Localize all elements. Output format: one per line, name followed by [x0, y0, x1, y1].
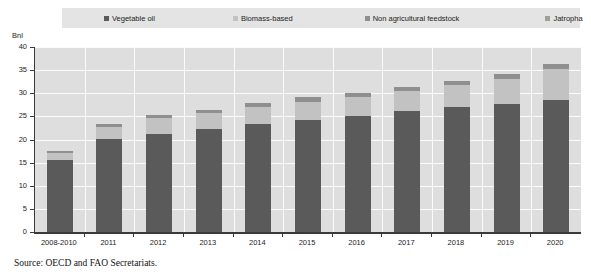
bar-segment	[394, 111, 420, 232]
legend-swatch-icon	[545, 16, 550, 21]
gridline-vertical	[184, 47, 185, 232]
x-axis-tick-label: 2018	[448, 238, 465, 247]
bar-stack	[295, 47, 321, 232]
x-axis-tick	[183, 233, 184, 237]
bar-segment	[394, 91, 420, 111]
bar-segment	[196, 129, 222, 232]
gridline-vertical	[531, 47, 532, 232]
gridline-vertical	[482, 47, 483, 232]
legend-item-biomass-based: Biomass-based	[233, 14, 293, 23]
chart-plot-area: 0510152025303540	[34, 47, 581, 232]
y-axis-tick-label: 30	[7, 88, 27, 97]
bar-stack	[394, 47, 420, 232]
gridline-vertical	[134, 47, 135, 232]
legend-item-jatropha: Jatropha	[545, 14, 582, 23]
bar-segment	[196, 110, 222, 113]
legend-item-label: Biomass-based	[241, 14, 293, 23]
bar-segment	[444, 85, 470, 106]
bar-segment	[444, 81, 470, 86]
x-axis-tick-label: 2014	[249, 238, 266, 247]
legend-item-label: Vegetable oil	[112, 14, 155, 23]
bar-stack	[196, 47, 222, 232]
x-axis-tick-label: 2016	[348, 238, 365, 247]
bar-segment	[543, 100, 569, 232]
bar-segment	[345, 116, 371, 232]
bar-segment	[245, 103, 271, 107]
y-axis-tick-label: 15	[7, 158, 27, 167]
bar-segment	[494, 74, 520, 79]
bar-stack	[245, 47, 271, 232]
x-axis-tick	[431, 233, 432, 237]
legend-item-vegetable-oil: Vegetable oil	[104, 14, 155, 23]
chart-legend: Vegetable oil Biomass-based Non agricult…	[62, 8, 580, 28]
x-axis-tick	[481, 233, 482, 237]
bar-stack	[47, 47, 73, 232]
bar-segment	[96, 127, 122, 139]
x-axis-tick-label: 2013	[199, 238, 216, 247]
x-axis-tick-label: 2011	[100, 238, 116, 247]
y-axis-tick	[30, 163, 34, 164]
y-axis-tick-label: 40	[7, 42, 27, 51]
x-axis-tick-label: 2012	[150, 238, 167, 247]
source-note: Source: OECD and FAO Secretariats.	[14, 258, 157, 268]
bar-stack	[345, 47, 371, 232]
chart-plot-wrapper: 0510152025303540 2008-201020112012201320…	[0, 40, 591, 240]
bar-segment	[146, 118, 172, 134]
y-axis-tick	[30, 186, 34, 187]
bar-segment	[494, 79, 520, 104]
bar-segment	[96, 139, 122, 232]
y-axis-tick-label: 20	[7, 135, 27, 144]
bar-segment	[146, 115, 172, 118]
bar-segment	[345, 93, 371, 97]
y-axis-tick	[30, 93, 34, 94]
bar-segment	[47, 153, 73, 160]
gridline-vertical	[432, 47, 433, 232]
bar-segment	[444, 107, 470, 232]
y-axis-tick-label: 10	[7, 181, 27, 190]
y-axis-tick-label: 25	[7, 111, 27, 120]
x-axis-tick	[282, 233, 283, 237]
bar-segment	[47, 151, 73, 153]
y-axis-tick	[30, 70, 34, 71]
bar-segment	[47, 160, 73, 232]
bar-segment	[394, 87, 420, 92]
bar-stack	[146, 47, 172, 232]
x-axis-tick	[332, 233, 333, 237]
legend-swatch-icon	[104, 16, 109, 21]
x-axis-tick-label: 2015	[299, 238, 316, 247]
y-axis-tick	[30, 140, 34, 141]
x-axis-tick-label: 2019	[497, 238, 514, 247]
x-axis-tick-label: 2017	[398, 238, 415, 247]
gridline-vertical	[382, 47, 383, 232]
bar-stack	[543, 47, 569, 232]
y-axis-tick-label: 0	[7, 227, 27, 236]
y-axis-tick	[30, 116, 34, 117]
x-axis-tick	[381, 233, 382, 237]
y-axis-tick	[30, 209, 34, 210]
bar-segment	[345, 97, 371, 116]
y-axis-tick-label: 5	[7, 204, 27, 213]
legend-item-label: Jatropha	[553, 14, 582, 23]
x-axis-tick-label: 2020	[547, 238, 564, 247]
x-axis-tick	[133, 233, 134, 237]
bar-segment	[543, 69, 569, 100]
bar-segment	[543, 64, 569, 70]
bar-segment	[245, 124, 271, 232]
bar-stack	[96, 47, 122, 232]
legend-swatch-icon	[365, 16, 370, 21]
bar-segment	[494, 104, 520, 232]
bar-segment	[146, 134, 172, 232]
y-axis-tick-label: 35	[7, 65, 27, 74]
bar-segment	[295, 120, 321, 232]
bar-segment	[245, 107, 271, 124]
legend-swatch-icon	[233, 16, 238, 21]
x-axis-tick	[530, 233, 531, 237]
gridline-vertical	[333, 47, 334, 232]
bar-segment	[295, 102, 321, 121]
gridline-vertical	[283, 47, 284, 232]
bar-segment	[196, 113, 222, 129]
x-axis-line	[34, 232, 581, 234]
x-axis-tick-label: 2008-2010	[41, 238, 77, 247]
x-axis-tick	[233, 233, 234, 237]
bar-segment	[295, 97, 321, 101]
